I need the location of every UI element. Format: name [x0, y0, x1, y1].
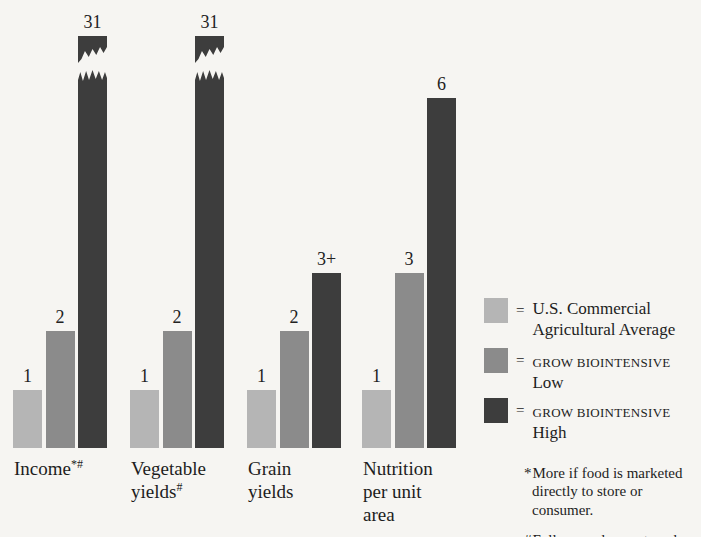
footnotes: *More if food is marketed directly to st…: [524, 464, 701, 537]
legend-label-line: U.S. Commercial: [532, 298, 675, 319]
legend-label-us-commercial-average: U.S. Commercial Agricultural Average: [532, 298, 675, 341]
bar-value-label: 31: [73, 11, 113, 33]
bar-value-label: 31: [190, 11, 230, 33]
broken-bar-top-segment: [78, 36, 107, 63]
legend-swatch-biointensive-low: [484, 348, 508, 373]
legend-label-caps: GROW BIOINTENSIVE: [532, 355, 670, 370]
equals-sign: =: [516, 348, 524, 368]
bar-value-label: 3+: [307, 248, 347, 270]
category-label-line: Nutrition: [363, 458, 433, 481]
legend-label-biointensive-low: GROW BIOINTENSIVE Low: [532, 348, 699, 394]
bar-value-label: 3: [389, 248, 429, 270]
category-label-nutrition-per-unit-area: Nutritionper unitarea: [363, 458, 433, 526]
bar-biointensive-high-grain-yields: [312, 273, 341, 448]
footnote-text: More if food is marketed: [533, 465, 683, 481]
legend-label-caps: GROW BIOINTENSIVE: [532, 405, 670, 420]
bar-value-label: 1: [8, 365, 48, 387]
broken-bar-top-segment: [195, 36, 224, 63]
bar-value-label: 1: [242, 365, 282, 387]
category-label-line: Grain: [248, 458, 293, 481]
footnote-marker: *: [524, 465, 533, 481]
equals-sign: =: [516, 298, 524, 318]
footnote-text: directly to store or consumer.: [524, 482, 701, 519]
bar-biointensive-low-grain-yields: [280, 331, 309, 448]
equals-sign: =: [516, 398, 524, 418]
bar-biointensive-low-vegetable-yields: [163, 331, 192, 448]
category-label-line: Income*#: [14, 458, 83, 481]
legend-entry-biointensive-low: = GROW BIOINTENSIVE Low: [484, 348, 699, 394]
legend-swatch-us-commercial-average: [484, 298, 508, 323]
legend-label-rest: High: [532, 423, 566, 442]
broken-bar-bottom-segment: [195, 70, 224, 448]
bar-us-commercial-grain-yields: [247, 390, 276, 448]
bar-biointensive-low-nutrition-per-unit-area: [395, 273, 424, 448]
category-label-line: Vegetable: [131, 458, 206, 481]
bar-value-label: 2: [157, 306, 197, 328]
legend-swatch-biointensive-high: [484, 398, 508, 423]
legend-entry-us-commercial-average: = U.S. Commercial Agricultural Average: [484, 298, 675, 341]
footnote-line: #Full range does not apply: [524, 531, 701, 537]
bar-value-label: 2: [40, 306, 80, 328]
bar-us-commercial-nutrition-per-unit-area: [362, 390, 391, 448]
category-label-vegetable-yields: Vegetableyields#: [131, 458, 206, 504]
category-label-line: per unit: [363, 481, 433, 504]
bar-value-label: 2: [274, 306, 314, 328]
legend-label-biointensive-high: GROW BIOINTENSIVE High: [532, 398, 699, 444]
category-label-grain-yields: Grainyields: [248, 458, 293, 504]
bar-biointensive-high-vegetable-yields: [195, 36, 224, 448]
category-label-line: yields: [248, 481, 293, 504]
footnote-hash: #Full range does not apply to all crops.: [524, 531, 701, 537]
category-label-line: yields#: [131, 481, 206, 504]
category-label-income: Income*#: [14, 458, 83, 481]
bar-biointensive-low-income: [46, 331, 75, 448]
footnote-marker: #: [524, 532, 533, 537]
category-label-line: area: [363, 504, 433, 527]
broken-bar-bottom-segment: [78, 70, 107, 448]
footnote-asterisk: *More if food is marketed directly to st…: [524, 464, 701, 519]
legend-label-rest: Low: [532, 373, 563, 392]
bar-us-commercial-income: [13, 390, 42, 448]
bar-biointensive-high-income: [78, 36, 107, 448]
footnote-text: Full range does not apply: [533, 532, 685, 537]
legend-label-line: Agricultural Average: [532, 319, 675, 340]
bar-biointensive-high-nutrition-per-unit-area: [427, 98, 456, 448]
bar-value-label: 6: [422, 73, 462, 95]
bar-us-commercial-vegetable-yields: [130, 390, 159, 448]
bar-plot: 1111222331313+6Income*#Vegetableyields#G…: [0, 0, 701, 537]
bar-value-label: 1: [357, 365, 397, 387]
chart-canvas: 1111222331313+6Income*#Vegetableyields#G…: [0, 0, 701, 537]
legend-entry-biointensive-high: = GROW BIOINTENSIVE High: [484, 398, 699, 444]
bar-value-label: 1: [125, 365, 165, 387]
footnote-line: *More if food is marketed: [524, 464, 701, 482]
